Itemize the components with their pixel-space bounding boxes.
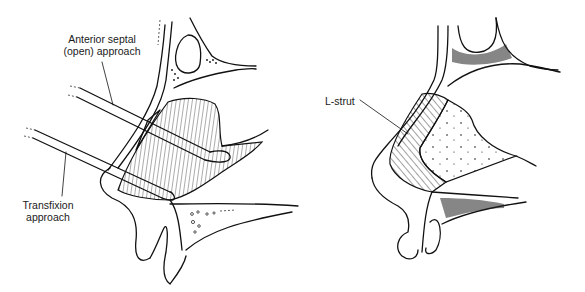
anterior-label-leader [102, 62, 113, 105]
transfixion-label-line1: Transfixion [12, 199, 84, 211]
transfixion-label-leader [62, 152, 66, 196]
l-strut-drawing [290, 0, 585, 292]
bone-stipple-lower [191, 210, 236, 233]
bone-stipple [171, 59, 217, 81]
maxilla-right [432, 192, 526, 224]
septal-approaches-drawing [0, 0, 300, 292]
anterior-label-line2: (open) approach [57, 45, 147, 57]
transfixion-approach-label: Transfixion approach [12, 199, 84, 223]
right-panel-l-strut: L-strut [290, 0, 585, 292]
left-panel-septal-approaches: Anterior septal (open) approach Transfix… [0, 0, 300, 292]
bone-stipple-lower-right [440, 198, 504, 218]
anterior-label-line1: Anterior septal [57, 33, 147, 45]
transfixion-label-line2: approach [12, 211, 84, 223]
l-strut-label: L-strut [325, 95, 355, 107]
septal-cartilage-hatched [118, 98, 262, 200]
l-strut-label-leader [360, 100, 408, 134]
bone-stipple-upper [452, 44, 512, 65]
anterior-septal-approach-label: Anterior septal (open) approach [57, 33, 147, 57]
maxilla [170, 204, 298, 251]
